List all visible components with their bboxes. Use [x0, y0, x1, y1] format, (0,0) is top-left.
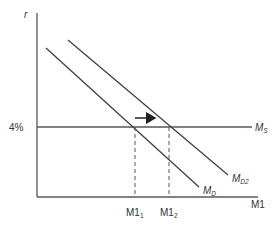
money-demand-curve: [46, 48, 199, 187]
x-axis-label: M1: [251, 199, 265, 210]
md-label: MD: [203, 185, 216, 197]
rate-label: 4%: [9, 122, 24, 133]
money-market-chart: r 4% M1 M11 M12 MS MD MD2: [0, 0, 279, 226]
tick-m1-2: M12: [160, 207, 178, 219]
ms-label: MS: [255, 122, 268, 134]
money-demand-2-curve: [68, 40, 228, 175]
y-axis-label: r: [24, 9, 28, 20]
md2-label: MD2: [232, 173, 249, 185]
tick-m1-1: M11: [126, 207, 144, 219]
